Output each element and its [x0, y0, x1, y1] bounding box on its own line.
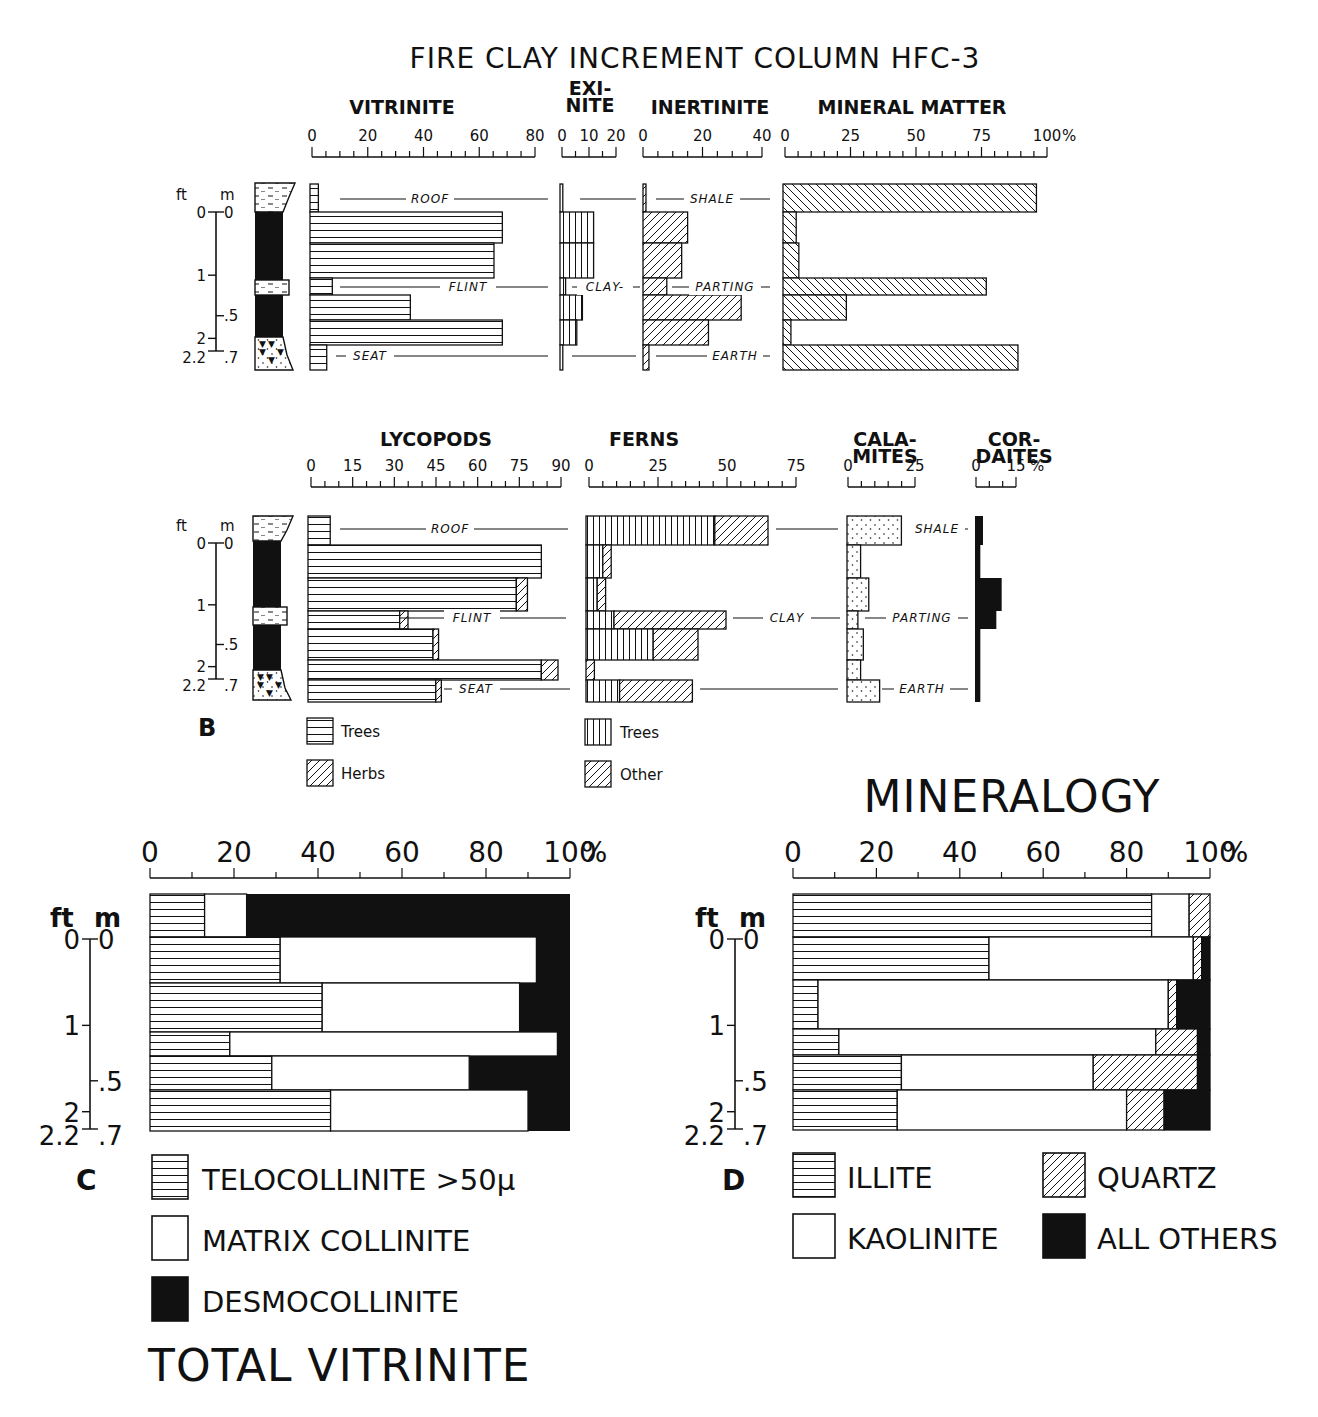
depth-ft-tick-label: 2.2 — [684, 1121, 725, 1151]
mineral-matter-bar — [783, 345, 1018, 370]
depth-ft-tick-label: 2.2 — [182, 677, 206, 695]
ferns-bar-1 — [653, 629, 698, 660]
lycopods-bar-0 — [308, 545, 541, 578]
vitrinite-bar — [310, 243, 494, 278]
legend-swatch-ferns-other — [585, 761, 611, 787]
ferns-bar-1 — [614, 611, 726, 629]
lycopods-tick-label: 45 — [426, 457, 445, 475]
inertinite-bar — [643, 345, 649, 370]
lycopods-bar-0 — [308, 660, 541, 680]
inertinite-tick-label: 20 — [693, 127, 712, 145]
horizon-label: CLAY — [770, 611, 805, 625]
lycopods-bar-0 — [308, 516, 330, 545]
legend-swatch-kaolinite — [793, 1214, 835, 1258]
mineralogy-bar-1 — [901, 1055, 1093, 1090]
inertinite-bar — [643, 320, 708, 345]
depth-ft-label: ft — [176, 186, 187, 204]
vitrinite-bar — [310, 278, 332, 295]
inertinite-bar — [643, 295, 741, 320]
legend-label: Trees — [619, 724, 659, 742]
vitrinite-tick-label: 60 — [470, 127, 489, 145]
root-trace-icon: ▼ — [268, 339, 275, 349]
depth-ft-tick-label: 0 — [196, 535, 206, 553]
lycopods-tick-label: 30 — [385, 457, 404, 475]
mineralogy-tick-label: 40 — [942, 836, 978, 869]
vitrinite-bar — [310, 345, 327, 370]
lycopods-tick-label: 75 — [510, 457, 529, 475]
depth-ft-tick-label: 2.2 — [182, 349, 206, 367]
percent-label: % — [1062, 127, 1076, 145]
cordaites-bar — [975, 516, 983, 545]
lithology-roof-shale — [255, 183, 295, 212]
depth-ft-tick-label: 1 — [196, 597, 206, 615]
horizon-label: PARTING — [695, 280, 754, 294]
root-trace-icon: ▼ — [257, 680, 264, 690]
cordaites-bar — [975, 545, 980, 578]
depth-ft-tick-label: 1 — [708, 1011, 725, 1041]
calamites-tick-label: 25 — [905, 457, 924, 475]
total-vitrinite-bar-1 — [331, 1090, 528, 1131]
lithology-coal — [255, 295, 283, 337]
lycopods-tick-label: 0 — [306, 457, 316, 475]
inertinite-bar — [643, 212, 688, 243]
chart-title: INERTINITE — [651, 96, 770, 118]
mineralogy-bar-3 — [1164, 1090, 1210, 1130]
depth-m-tick-label: .5 — [224, 636, 238, 654]
depth-m-tick-label: .7 — [224, 677, 238, 695]
depth-ft-tick-label: 2.2 — [39, 1121, 80, 1151]
depth-m-tick-label: .7 — [98, 1121, 123, 1151]
root-trace-icon: ▼ — [266, 688, 273, 698]
lithology-coal — [255, 212, 283, 280]
depth-m-tick-label: 0 — [98, 925, 115, 955]
mineral-matter-bar — [783, 243, 799, 278]
horizon-label: SEAT — [353, 349, 388, 363]
panel-c-total-vitrinite: 020406080100%ftm0122.20.5.7CTELOCOLLINIT… — [39, 836, 608, 1391]
mineral-matter-bar — [783, 212, 796, 243]
ferns-bar-0 — [586, 629, 653, 660]
total-vitrinite-bar-0 — [150, 937, 280, 983]
depth-ft-tick-label: 2 — [196, 330, 206, 348]
legend-label: Trees — [340, 723, 380, 741]
exinite-bar — [560, 278, 566, 295]
panel-label-b: B — [198, 714, 216, 742]
calamites-bar — [847, 680, 880, 702]
ferns-bar-1 — [715, 516, 768, 545]
exinite-bar — [560, 295, 582, 320]
lithology-flint-clay — [253, 607, 287, 625]
mineralogy-bar-1 — [897, 1090, 1126, 1130]
mineral-tick-label: 75 — [972, 127, 991, 145]
total-vitrinite-bar-1 — [272, 1056, 469, 1090]
depth-m-tick-label: .5 — [98, 1067, 123, 1097]
mineralogy-bar-2 — [1193, 937, 1201, 980]
legend-label: QUARTZ — [1097, 1161, 1217, 1195]
mineralogy-bar-3 — [1177, 980, 1210, 1029]
vitrinite-total-tick-label: 0 — [141, 836, 159, 869]
panel-b-palynology: LYCOPODSFERNSCALA-MITESCOR-DAITES0153045… — [176, 428, 1053, 787]
mineralogy-bar-2 — [1156, 1029, 1198, 1055]
legend-label: TELOCOLLINITE >50μ — [201, 1163, 515, 1197]
chart-title-mineralogy: MINERALOGY — [864, 771, 1161, 822]
mineralogy-bar-2 — [1168, 980, 1176, 1029]
mineralogy-tick-label: 80 — [1109, 836, 1145, 869]
vitrinite-bar — [310, 320, 502, 345]
lycopods-bar-0 — [308, 578, 516, 611]
depth-ft-tick-label: 1 — [63, 1011, 80, 1041]
total-vitrinite-bar-1 — [322, 983, 519, 1032]
mineralogy-bar-2 — [1093, 1055, 1197, 1090]
calamites-bar — [847, 516, 901, 545]
root-trace-icon: ▼ — [275, 680, 282, 690]
depth-m-tick-label: .7 — [743, 1121, 768, 1151]
calamites-bar — [847, 629, 863, 660]
chart-title-total-vitrinite: TOTAL VITRINITE — [147, 1340, 531, 1391]
exinite-tick-label: 20 — [606, 127, 625, 145]
mineral-tick-label: 25 — [841, 127, 860, 145]
horizon-label: PARTING — [892, 611, 951, 625]
lycopods-bar-0 — [308, 629, 433, 660]
lycopods-tick-label: 60 — [468, 457, 487, 475]
depth-m-tick-label: .7 — [224, 349, 238, 367]
root-trace-icon: ▼ — [266, 672, 273, 682]
mineral-matter-bar — [783, 320, 791, 345]
chart-title: LYCOPODS — [380, 428, 492, 450]
horizon-label: SHALE — [915, 522, 959, 536]
calamites-bar — [847, 545, 861, 578]
